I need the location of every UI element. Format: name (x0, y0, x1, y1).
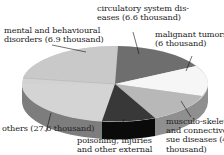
label-mental: mental and behavioural disorders (6.9 th… (4, 26, 104, 44)
label-circulatory: circulatory system dis- eases (6.6 thous… (97, 4, 189, 22)
label-musc-line4: thousand) (166, 145, 224, 154)
label-malig-line2: (6 thousand) (155, 39, 224, 48)
pie-top (22, 46, 208, 122)
label-musculo: musculo-skeletal and connective tis- sue… (166, 117, 224, 154)
slice-top-mental (23, 46, 118, 84)
label-poisoning: poisoning, injuries and other external (77, 136, 152, 154)
label-poison-line2: and other external (77, 145, 152, 154)
label-mental-line2: disorders (6.9 thousand) (4, 35, 104, 44)
label-others-line1: others (27.6 thousand) (2, 124, 94, 133)
label-circ-line2: eases (6.6 thousand) (97, 13, 189, 22)
label-malignant: malignant tumors (6 thousand) (155, 30, 224, 48)
label-others: others (27.6 thousand) (2, 124, 94, 133)
